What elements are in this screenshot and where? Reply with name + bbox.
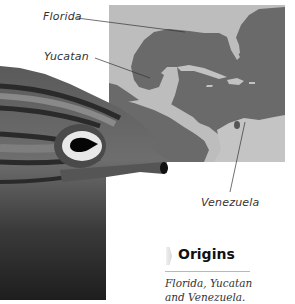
fish-lip <box>160 162 168 174</box>
origins-text-line2: and Venezuela. <box>165 290 295 304</box>
land-puerto-rico <box>249 82 255 84</box>
origins-text-line1: Florida, Yucatan <box>165 276 295 290</box>
origins-text: Florida, Yucatan and Venezuela. <box>165 276 295 304</box>
land-hispaniola <box>227 78 244 85</box>
origins-divider <box>165 271 250 272</box>
label-yucatan: Yucatan <box>44 50 89 63</box>
fish-illustration <box>0 66 172 300</box>
label-venezuela: Venezuela <box>201 196 260 209</box>
land-south-america <box>214 115 285 162</box>
lake-maracaibo <box>234 121 240 129</box>
land-jamaica <box>206 85 213 87</box>
label-florida: Florida <box>43 10 82 23</box>
origins-heading: Origins <box>178 246 235 262</box>
land-cuba <box>177 65 227 79</box>
